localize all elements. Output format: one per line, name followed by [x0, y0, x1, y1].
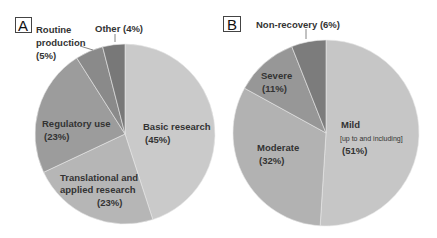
panel-label-a: A	[16, 17, 32, 34]
label-moderate-pct: (32%)	[259, 155, 284, 166]
label-routine-2: production	[36, 37, 86, 48]
pie-chart-b	[233, 40, 419, 226]
label-basic-research-pct: (45%)	[145, 134, 170, 145]
label-translational-2: applied research	[60, 184, 136, 195]
label-basic-research: Basic research	[143, 121, 211, 132]
label-regulatory-pct: (23%)	[44, 131, 69, 142]
label-translational-pct: (23%)	[97, 197, 122, 208]
label-other: Other (4%)	[95, 23, 143, 34]
pie-slice-mild-up-to-and-including	[320, 40, 419, 226]
svg-text:A: A	[18, 17, 28, 34]
label-mild: Mild	[341, 119, 360, 130]
label-regulatory: Regulatory use	[42, 118, 111, 129]
label-severe: Severe	[261, 70, 292, 81]
label-nonrecovery: Non-recovery (6%)	[256, 19, 340, 30]
label-routine: Routine	[36, 24, 71, 35]
label-moderate: Moderate	[257, 142, 299, 153]
panel-label-b: B	[224, 16, 241, 33]
svg-text:B: B	[227, 16, 237, 33]
label-mild-pct: (51%)	[342, 145, 367, 156]
figure: A B Basic research (45%) Translational a…	[0, 0, 437, 238]
label-severe-pct: (11%)	[262, 83, 287, 94]
label-routine-pct: (5%)	[36, 50, 56, 61]
label-mild-2: [up to and including]	[340, 135, 403, 143]
label-translational: Translational and	[60, 172, 138, 183]
